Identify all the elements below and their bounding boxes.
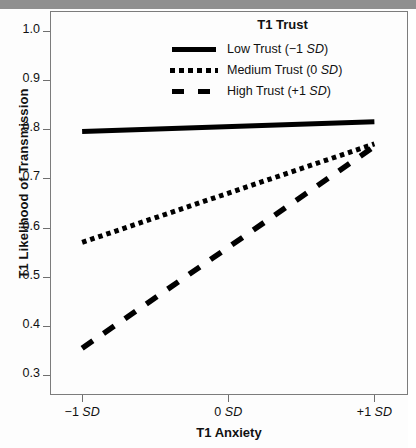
dotted-line-key <box>168 63 220 77</box>
y-tick-mark <box>43 80 50 81</box>
y-tick-label: 0.5 <box>23 268 40 282</box>
legend-item-0: Low Trust (−1 SD) <box>168 38 383 59</box>
dashed-line-key <box>168 84 220 98</box>
y-tick-0-7: 0.7 <box>0 178 50 179</box>
y-tick-mark <box>43 228 50 229</box>
y-tick-label: 1.0 <box>23 22 40 36</box>
solid-line-key-swatch <box>172 47 216 52</box>
y-tick-0-5: 0.5 <box>0 277 50 278</box>
x-tick-mark <box>82 395 83 402</box>
legend-item-label: Medium Trust (0 SD) <box>227 63 342 77</box>
y-tick-0-3: 0.3 <box>0 375 50 376</box>
chart-legend: T1 Trust Low Trust (−1 SD)Medium Trust (… <box>168 17 383 101</box>
y-tick-label: 0.9 <box>23 71 40 85</box>
x-tick-mark <box>228 395 229 402</box>
y-tick-label: 0.6 <box>23 219 40 233</box>
legend-item-2: High Trust (+1 SD) <box>168 80 383 101</box>
y-tick-mark <box>43 129 50 130</box>
y-tick-mark <box>43 277 50 278</box>
y-tick-0-6: 0.6 <box>0 228 50 229</box>
y-tick-0-8: 0.8 <box>0 129 50 130</box>
y-tick-1-0: 1.0 <box>0 31 50 32</box>
y-tick-0-4: 0.4 <box>0 326 50 327</box>
x-tick-mark <box>374 395 375 402</box>
y-tick-mark <box>43 326 50 327</box>
legend-items: Low Trust (−1 SD)Medium Trust (0 SD)High… <box>168 38 383 101</box>
legend-title: T1 Trust <box>168 17 383 32</box>
x-tick-label: 0 SD <box>214 405 242 419</box>
dashed-line-key-swatch <box>172 89 218 94</box>
y-tick-label: 0.7 <box>23 169 40 183</box>
solid-line-key <box>168 42 220 56</box>
y-tick-label: 0.8 <box>23 120 40 134</box>
x-tick-label: +1 SD <box>357 405 392 419</box>
x-tick-label: −1 SD <box>65 405 100 419</box>
chart-figure: T1 Likelihood of Transmission 1.00.90.80… <box>0 0 416 448</box>
x-axis-title: T1 Anxiety <box>50 425 408 440</box>
y-tick-label: 0.4 <box>23 317 40 331</box>
dotted-line-key-swatch <box>170 68 218 73</box>
legend-item-label: High Trust (+1 SD) <box>227 84 331 98</box>
y-tick-label: 0.3 <box>23 366 40 380</box>
legend-item-1: Medium Trust (0 SD) <box>168 59 383 80</box>
legend-item-label: Low Trust (−1 SD) <box>227 42 328 56</box>
y-tick-0-9: 0.9 <box>0 80 50 81</box>
y-tick-mark <box>43 31 50 32</box>
y-tick-mark <box>43 178 50 179</box>
y-tick-mark <box>43 375 50 376</box>
